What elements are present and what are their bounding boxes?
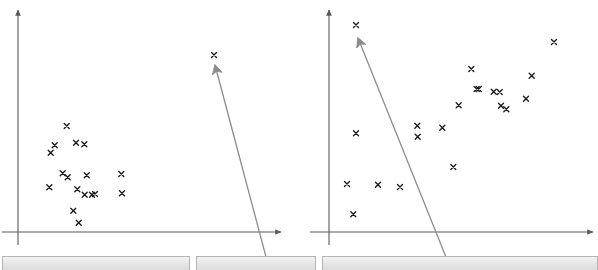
data-point bbox=[451, 165, 456, 170]
data-point bbox=[47, 185, 52, 190]
data-point bbox=[84, 173, 89, 178]
data-point bbox=[491, 89, 496, 94]
data-point bbox=[64, 124, 69, 129]
data-point bbox=[415, 134, 420, 139]
data-point bbox=[351, 212, 356, 217]
data-point bbox=[71, 208, 76, 213]
right-plot-canvas bbox=[299, 0, 598, 256]
data-point bbox=[52, 143, 57, 148]
left-scatter-plot bbox=[0, 0, 299, 256]
outlier-callout-arrow bbox=[358, 38, 452, 256]
figure-root bbox=[0, 0, 598, 270]
data-point bbox=[398, 185, 403, 190]
right-scatter-plot bbox=[299, 0, 598, 256]
bottom-panel-1[interactable] bbox=[2, 256, 190, 270]
data-point bbox=[74, 140, 79, 145]
data-point bbox=[82, 192, 87, 197]
data-point bbox=[76, 220, 81, 225]
bottom-panel-3[interactable] bbox=[322, 256, 598, 270]
outlier-callout-arrow bbox=[215, 65, 270, 256]
scatter-markers bbox=[345, 40, 557, 217]
outlier-point bbox=[354, 23, 359, 28]
data-point bbox=[376, 182, 381, 187]
bottom-panel-strip bbox=[0, 256, 598, 270]
data-point bbox=[60, 171, 65, 176]
data-point bbox=[456, 103, 461, 108]
data-point bbox=[345, 182, 350, 187]
data-point bbox=[120, 191, 125, 196]
left-plot-canvas bbox=[0, 0, 299, 256]
data-point bbox=[48, 150, 53, 155]
data-point bbox=[504, 107, 509, 112]
data-point bbox=[497, 90, 502, 95]
data-point bbox=[529, 73, 534, 78]
outlier-point bbox=[212, 53, 217, 58]
data-point bbox=[354, 131, 359, 136]
data-point bbox=[119, 172, 124, 177]
data-point bbox=[524, 96, 529, 101]
data-point bbox=[75, 187, 80, 192]
data-point bbox=[499, 103, 504, 108]
data-point bbox=[415, 123, 420, 128]
data-point bbox=[440, 125, 445, 130]
scatter-markers bbox=[47, 124, 125, 226]
data-point bbox=[469, 67, 474, 72]
data-point bbox=[65, 175, 70, 180]
data-point bbox=[82, 142, 87, 147]
data-point bbox=[552, 40, 557, 45]
bottom-panel-2[interactable] bbox=[196, 256, 316, 270]
